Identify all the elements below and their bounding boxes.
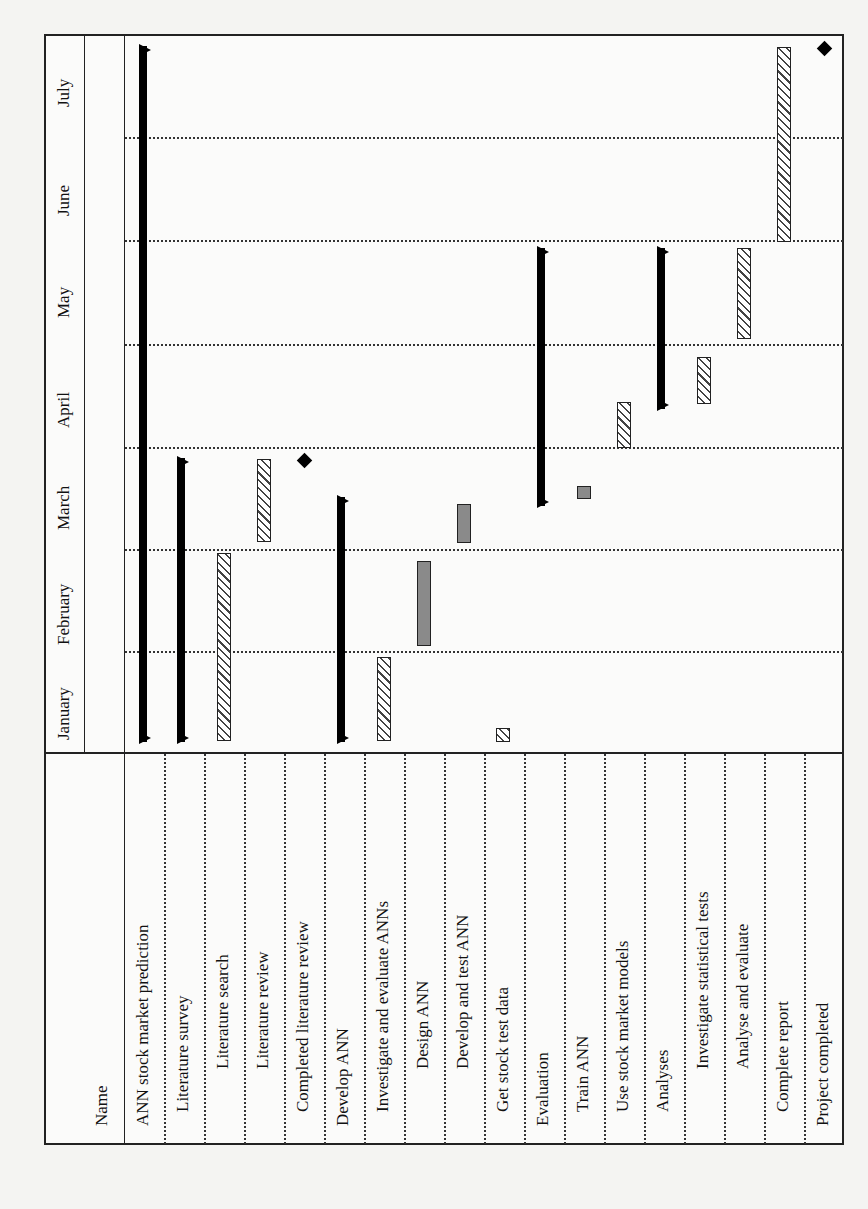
month-label-april: April: [54, 392, 74, 428]
task-name: Develop and test ANN: [453, 915, 473, 1069]
task-name: Analyses: [653, 1050, 673, 1112]
task-bar-literature-search: [217, 553, 231, 741]
row-divider: [564, 754, 566, 1144]
task-bar-complete-report: [777, 47, 791, 242]
row-divider: [804, 754, 806, 1144]
month-label-february: February: [54, 584, 74, 645]
summary-bar-literature-survey: [177, 458, 185, 742]
name-column-header: Name: [92, 1085, 112, 1126]
month-gridline: [125, 549, 843, 551]
row-divider: [684, 754, 686, 1144]
task-bar-investigate-statistical-tests: [697, 357, 711, 404]
task-bar-train-ann: [577, 486, 591, 499]
row-divider: [324, 754, 326, 1144]
row-divider: [284, 754, 286, 1144]
task-name: Literature survey: [173, 995, 193, 1112]
task-name: Design ANN: [413, 981, 433, 1069]
task-bar-develop-and-test-ann: [457, 504, 471, 543]
month-label-january: January: [54, 687, 74, 740]
row-divider: [244, 754, 246, 1144]
row-divider: [364, 754, 366, 1144]
month-label-may: May: [54, 287, 74, 318]
task-name: Project completed: [813, 1003, 833, 1126]
task-name: Train ANN: [573, 1036, 593, 1112]
month-gridline: [125, 651, 843, 653]
row-divider: [164, 754, 166, 1144]
task-name: Develop ANN: [333, 1028, 353, 1126]
row-divider: [484, 754, 486, 1144]
row-divider: [764, 754, 766, 1144]
month-gridline: [125, 344, 843, 346]
name-column-divider: [124, 35, 125, 1144]
summary-bar-develop-ann: [337, 497, 345, 742]
month-gridline: [125, 447, 843, 449]
task-name: Completed literature review: [293, 921, 313, 1112]
task-name: Analyse and evaluate: [733, 924, 753, 1069]
month-gridline: [125, 137, 843, 139]
month-header-divider: [84, 35, 85, 752]
row-divider: [644, 754, 646, 1144]
task-name: Literature review: [253, 951, 273, 1069]
task-bar-investigate-and-evaluate-anns: [377, 657, 391, 741]
task-name: Investigate statistical tests: [693, 891, 713, 1069]
row-divider: [404, 754, 406, 1144]
month-label-june: June: [54, 185, 74, 216]
task-name: Use stock market models: [613, 941, 633, 1112]
month-label-march: March: [54, 486, 74, 530]
task-name: Investigate and evaluate ANNs: [373, 901, 393, 1112]
row-divider: [604, 754, 606, 1144]
task-name: ANN stock market prediction: [133, 924, 153, 1126]
month-label-july: July: [54, 79, 74, 107]
task-bar-design-ann: [417, 561, 431, 646]
month-gridline: [125, 240, 843, 242]
task-bar-analyse-and-evaluate: [737, 248, 751, 339]
row-divider: [724, 754, 726, 1144]
task-bar-literature-review: [257, 459, 271, 542]
task-bar-use-stock-market-models: [617, 402, 631, 448]
task-name: Complete report: [773, 1001, 793, 1112]
task-bar-get-stock-test-data: [496, 728, 510, 742]
summary-bar-evaluation: [537, 248, 545, 506]
task-name: Literature search: [213, 954, 233, 1069]
summary-bar-ann-stock-market-prediction: [139, 46, 147, 742]
row-divider: [204, 754, 206, 1144]
summary-bar-analyses: [657, 248, 665, 409]
task-name: Evaluation: [533, 1052, 553, 1126]
task-name: Get stock test data: [493, 987, 513, 1112]
row-divider: [524, 754, 526, 1144]
row-divider: [444, 754, 446, 1144]
